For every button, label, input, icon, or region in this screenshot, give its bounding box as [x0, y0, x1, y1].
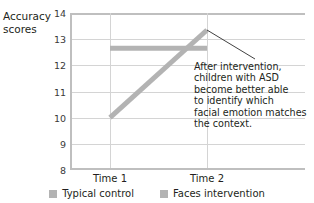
legend-swatch-icon [160, 190, 168, 198]
annotation-line: facial emotion matches [194, 107, 312, 118]
legend-item[interactable]: Typical control [49, 188, 134, 199]
annotation-line: the context. [194, 118, 312, 129]
annotation-line: to identify which [194, 95, 312, 106]
y-axis-tick-label: 14 [44, 8, 66, 19]
legend-label: Typical control [62, 188, 134, 199]
chart-legend: Typical controlFaces intervention [0, 188, 314, 199]
legend-label: Faces intervention [173, 188, 265, 199]
y-axis-tick-label: 8 [44, 165, 66, 176]
annotation-line: After intervention, [194, 61, 312, 72]
y-axis-tick-labels: 891011121314 [44, 13, 66, 170]
y-axis-tick-label: 9 [44, 138, 66, 149]
legend-item[interactable]: Faces intervention [160, 188, 265, 199]
x-axis-tick-label: Time 1 [93, 173, 127, 184]
y-axis-tick-label: 12 [44, 60, 66, 71]
y-axis-tick-label: 10 [44, 112, 66, 123]
annotation-line: become better able [194, 84, 312, 95]
x-axis-tick-labels: Time 1Time 2 [70, 173, 305, 189]
series-line [110, 30, 207, 118]
annotation-line: children with ASD [194, 72, 312, 83]
x-axis-tick-label: Time 2 [190, 173, 224, 184]
annotation-text: After intervention,children with ASDbeco… [194, 61, 312, 129]
y-axis-tick-label: 13 [44, 34, 66, 45]
legend-swatch-icon [49, 190, 57, 198]
y-axis-tick-label: 11 [44, 86, 66, 97]
